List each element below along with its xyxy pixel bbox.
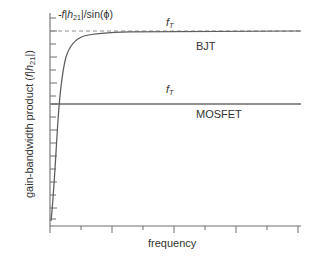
series-label-mosfet: MOSFET bbox=[196, 109, 242, 120]
asymptote-annotation: -f|h21|/sin(ϕ) bbox=[58, 9, 113, 22]
plot-area bbox=[0, 0, 322, 261]
series-curve-bjt bbox=[51, 31, 301, 221]
ft-label-bjt: fT bbox=[166, 17, 174, 29]
y-axis-label-bar2: | bbox=[23, 54, 35, 57]
annotation-over-sin: /sin(ϕ) bbox=[84, 8, 113, 20]
ft-label-mosfet-sub: T bbox=[169, 88, 174, 97]
y-axis-label: gain-bandwidth product (f|h21|) bbox=[24, 24, 36, 224]
y-axis-label-bar1: | bbox=[23, 71, 35, 74]
y-axis-label-h: h bbox=[23, 65, 35, 71]
ft-label-bjt-sub: T bbox=[169, 21, 174, 30]
series-label-bjt: BJT bbox=[196, 41, 216, 52]
y-axis-label-prefix: gain-bandwidth product ( bbox=[23, 77, 35, 198]
y-axis-label-suffix: ) bbox=[23, 50, 35, 54]
y-axis-label-sub: 21 bbox=[28, 57, 37, 65]
y-axis-label-f: f bbox=[23, 74, 35, 77]
chart-figure: frequency gain-bandwidth product (f|h21|… bbox=[0, 0, 322, 261]
ft-label-mosfet: fT bbox=[166, 84, 174, 96]
x-axis-label: frequency bbox=[148, 238, 196, 249]
x-axis-ticks bbox=[50, 226, 298, 233]
annotation-sub: 21 bbox=[73, 14, 81, 22]
